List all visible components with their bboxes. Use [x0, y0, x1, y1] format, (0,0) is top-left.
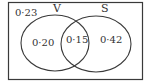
set-s-label: S: [101, 3, 109, 14]
intersection-value: 0·15: [66, 35, 88, 45]
set-s-only-value: 0·42: [100, 35, 122, 45]
set-v-only-value: 0·20: [32, 38, 54, 48]
universal-value: 0·23: [15, 8, 37, 18]
set-v-label: V: [53, 3, 61, 14]
